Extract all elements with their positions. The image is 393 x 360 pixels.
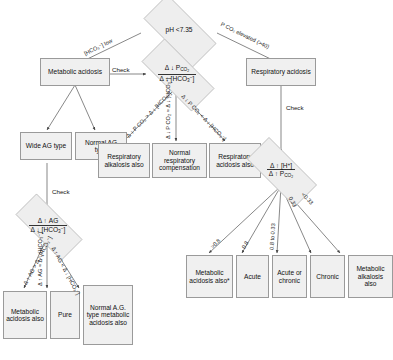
decision-h-pco2-ratio-label: Δ ↑ [H+] Δ ↑ PCO2 xyxy=(267,162,295,180)
edge-label-check-1: Check xyxy=(112,66,130,73)
node-normal-respiratory-compensation-label: Normal respiratory compensation xyxy=(155,149,204,171)
node-pure[interactable]: Pure xyxy=(50,291,80,339)
edge-label-ratio-gt-08: >0.8 xyxy=(210,238,222,250)
node-metabolic-acidosis[interactable]: Metabolic acidosis xyxy=(40,58,110,86)
node-metabolic-acidosis-label: Metabolic acidosis xyxy=(48,68,102,75)
node-metabolic-acidosis-also-left[interactable]: Metabolic acidosis also xyxy=(3,291,47,339)
node-chronic[interactable]: Chronic xyxy=(310,255,345,298)
node-respiratory-acidosis-label: Respiratory acidosis xyxy=(251,68,310,75)
node-wide-ag-type-label: Wide AG type xyxy=(26,142,66,149)
node-metabolic-acidosis-also-right[interactable]: Metabolic acidosis also* xyxy=(186,255,233,298)
node-acute-or-chronic[interactable]: Acute or chronic xyxy=(272,255,307,298)
edge-label-ratio-lt-033: <0.33 xyxy=(300,192,314,206)
node-acute[interactable]: Acute xyxy=(236,255,269,298)
edge-label-ag-eq-hco3: Δ ↑ AG ≈ Δ ↓ [HCO₃⁻] xyxy=(38,232,44,286)
edge-label-ratio-08-to-033: 0.8 to 0.33 xyxy=(269,223,276,250)
node-respiratory-alkalosis-also-label: Respiratory alkalosis also xyxy=(101,153,147,168)
node-respiratory-alkalosis-also[interactable]: Respiratory alkalosis also xyxy=(98,143,150,178)
node-acute-or-chronic-label: Acute or chronic xyxy=(275,269,304,284)
decision-h-pco2-ratio[interactable]: Δ ↑ [H+] Δ ↑ PCO2 xyxy=(234,150,328,192)
edge-label-check-2: Check xyxy=(286,104,304,111)
decision-ph-label: pH <7.35 xyxy=(166,26,193,34)
decision-ag-hco3-ratio-label: Δ ↑ AG Δ ↓ [HCO3−] xyxy=(29,217,68,234)
edge-label-hco3-low: [HCO₃⁻] low xyxy=(84,39,114,57)
edge-label-pco2-eq-hco3: Δ ↓ P CO₂ ≈ Δ ↓ [HCO₃⁻] xyxy=(166,78,172,139)
node-pure-label: Pure xyxy=(58,311,72,318)
node-wide-ag-type[interactable]: Wide AG type xyxy=(20,132,72,160)
edge-label-ratio-08: 0.8 xyxy=(241,240,250,250)
node-metabolic-alkalosis-also[interactable]: Metabolic alkalosis also xyxy=(348,255,393,298)
node-acute-label: Acute xyxy=(244,273,261,280)
node-respiratory-acidosis[interactable]: Respiratory acidosis xyxy=(246,58,316,86)
edge-label-pco2-elevated: P CO₂ elevated (>40) xyxy=(220,22,270,50)
node-metabolic-alkalosis-also-label: Metabolic alkalosis also xyxy=(351,265,390,287)
edge-label-check-3: Check xyxy=(52,188,70,195)
node-chronic-label: Chronic xyxy=(316,273,339,280)
decision-ph[interactable]: pH <7.35 xyxy=(131,7,227,53)
node-metabolic-acidosis-also-right-label: Metabolic acidosis also* xyxy=(189,269,230,284)
node-normal-ag-metabolic-acidosis-also-label: Normal A.G. type metabolic acidosis also xyxy=(86,304,130,326)
node-normal-respiratory-compensation[interactable]: Normal respiratory compensation xyxy=(152,143,207,178)
node-metabolic-acidosis-also-left-label: Metabolic acidosis also xyxy=(6,308,44,323)
node-normal-ag-metabolic-acidosis-also[interactable]: Normal A.G. type metabolic acidosis also xyxy=(83,285,133,345)
edge-label-pco2-lt-hco3: Δ ↓ P CO₂ < Δ ↓ [HCO₃⁻] xyxy=(180,94,227,142)
decision-pco2-hco3-ratio-label: Δ ↓ PCO2 Δ ↓ [HCO3−] xyxy=(158,64,197,83)
decision-pco2-hco3-ratio[interactable]: Δ ↓ PCO2 Δ ↓ [HCO3−] xyxy=(128,52,226,96)
